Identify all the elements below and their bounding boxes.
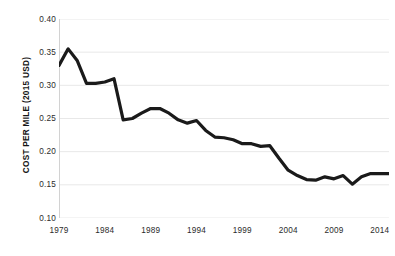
x-tick-label: 1999	[222, 226, 262, 235]
x-tick-label: 2009	[314, 226, 354, 235]
y-tick-label: 0.10	[24, 214, 56, 223]
x-tick-label: 2014	[360, 226, 395, 235]
y-tick-label: 0.20	[24, 147, 56, 156]
y-tick-label: 0.30	[24, 81, 56, 90]
plot-svg	[59, 19, 389, 218]
y-tick-label: 0.25	[24, 114, 56, 123]
x-tick-label: 1984	[85, 226, 125, 235]
x-tick-label: 1994	[177, 226, 217, 235]
gridlines	[59, 19, 389, 218]
y-tick-label: 0.15	[24, 180, 56, 189]
x-tick-label: 2004	[268, 226, 308, 235]
y-tick-label: 0.40	[24, 15, 56, 24]
y-tick-label: 0.35	[24, 48, 56, 57]
data-series-line	[59, 49, 389, 184]
x-tick-label: 1989	[131, 226, 171, 235]
line-chart-figure: COST PER MILE (2015 USD) 0.400.350.300.2…	[0, 0, 395, 256]
x-tick-label: 1979	[39, 226, 79, 235]
plot-area	[59, 19, 389, 218]
